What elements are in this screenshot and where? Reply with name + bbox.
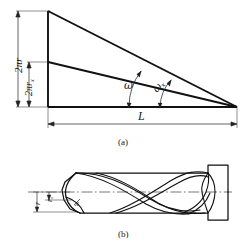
label-rx-subscript: x bbox=[49, 197, 54, 199]
helix-line-inner bbox=[48, 62, 237, 107]
arrowhead-L-left bbox=[48, 122, 54, 126]
arrowhead-L-right bbox=[231, 122, 237, 126]
label-x-point: x bbox=[75, 199, 79, 208]
arrowhead-2pirx-bottom bbox=[27, 101, 31, 107]
arrowhead-2pirx-top bbox=[27, 62, 31, 68]
arrowhead-2pir-bottom bbox=[16, 101, 20, 107]
label-rx: rx bbox=[46, 197, 55, 202]
label-r: r bbox=[34, 202, 42, 205]
dimension-lines-panel-a bbox=[16, 11, 237, 128]
angle-indicators-panel-a bbox=[129, 71, 171, 107]
label-2pirx: 2πrx bbox=[24, 79, 35, 96]
label-2pir: 2πr bbox=[13, 58, 24, 73]
helix-line-outer bbox=[48, 11, 237, 107]
caption-panel-b: (b) bbox=[118, 230, 129, 239]
figure-canvas: 2πr 2πrx L ω ωx (a) r rx x (b) bbox=[0, 0, 251, 247]
arrowhead-2pir-top bbox=[16, 11, 20, 17]
flute-1-edge-a bbox=[76, 173, 196, 214]
technical-drawing-svg bbox=[0, 0, 251, 247]
development-triangle bbox=[48, 11, 237, 107]
label-L: L bbox=[138, 110, 145, 122]
arrowhead-omega-x-upper bbox=[167, 79, 172, 86]
arrowhead-r bbox=[35, 207, 38, 212]
flute-end-face-lobe bbox=[202, 173, 208, 213]
label-2pirx-subscript: x bbox=[28, 79, 35, 82]
drill-helical-flutes bbox=[76, 172, 210, 214]
label-omega: ω bbox=[124, 80, 133, 91]
caption-panel-a: (a) bbox=[118, 138, 128, 147]
dimension-arrows-panel-a bbox=[16, 11, 237, 126]
